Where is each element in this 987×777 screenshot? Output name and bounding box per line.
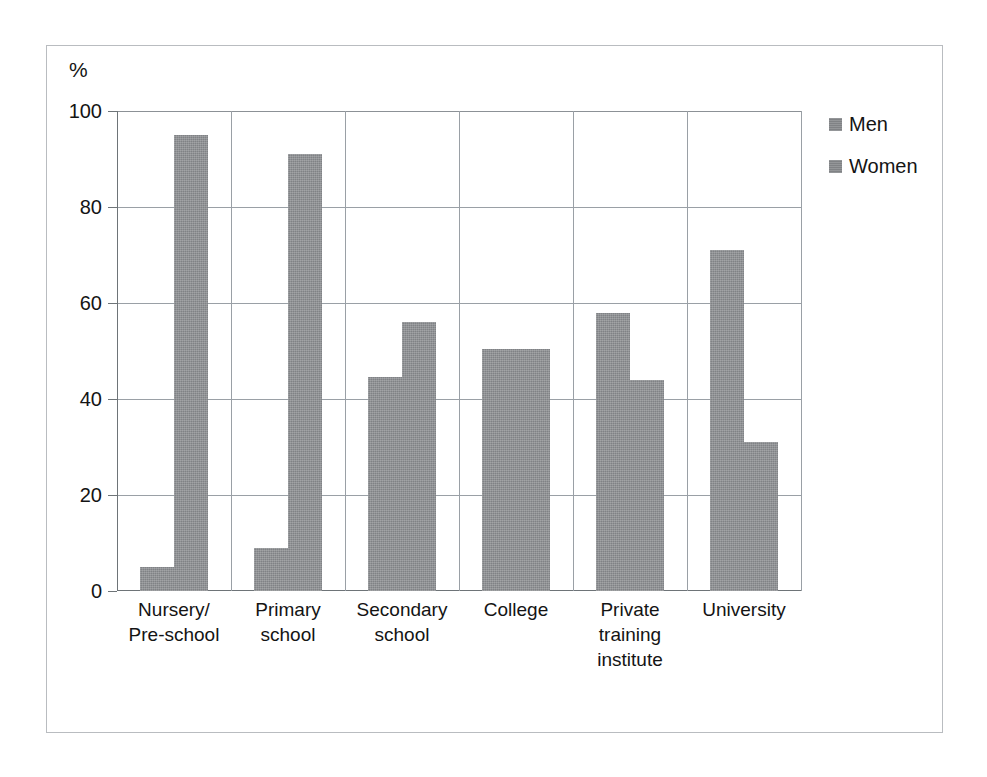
y-axis-spine	[117, 111, 118, 591]
y-tick-mark-100	[108, 111, 117, 112]
y-tick-label-60: 60	[46, 293, 102, 313]
bar-men-2[interactable]	[368, 377, 402, 591]
x-axis-category-labels: Nursery/Pre-schoolPrimaryschoolSecondary…	[117, 597, 801, 717]
bar-women-2[interactable]	[402, 322, 436, 591]
bar-women-4[interactable]	[630, 380, 664, 591]
chart-legend: MenWomen	[829, 114, 939, 198]
category-separator-6	[801, 111, 802, 591]
y-tick-label-80: 80	[46, 197, 102, 217]
category-separator-2	[345, 111, 346, 591]
x-tick-label-line: Secondary	[345, 597, 459, 622]
x-tick-label-2: Secondaryschool	[345, 597, 459, 647]
y-tick-mark-80	[108, 207, 117, 208]
x-tick-label-4: Privatetraininginstitute	[573, 597, 687, 672]
y-tick-mark-20	[108, 495, 117, 496]
x-tick-label-line: University	[687, 597, 801, 622]
bar-men-4[interactable]	[596, 313, 630, 591]
x-tick-label-line: Nursery/	[117, 597, 231, 622]
bar-women-0[interactable]	[174, 135, 208, 591]
x-tick-label-line: Private	[573, 597, 687, 622]
y-tick-mark-60	[108, 303, 117, 304]
x-tick-label-3: College	[459, 597, 573, 622]
x-tick-label-line: Primary	[231, 597, 345, 622]
x-tick-label-1: Primaryschool	[231, 597, 345, 647]
category-separator-5	[687, 111, 688, 591]
legend-label-men: Men	[849, 114, 888, 134]
y-tick-mark-40	[108, 399, 117, 400]
bar-men-0[interactable]	[140, 567, 174, 591]
bar-men-3[interactable]	[482, 349, 516, 591]
y-tick-label-40: 40	[46, 389, 102, 409]
x-tick-label-line: College	[459, 597, 573, 622]
legend-entry-men[interactable]: Men	[829, 114, 939, 134]
x-tick-label-0: Nursery/Pre-school	[117, 597, 231, 647]
y-axis-unit-label: %	[69, 59, 88, 80]
bar-women-5[interactable]	[744, 442, 778, 591]
x-tick-label-line: training	[573, 622, 687, 647]
category-separator-4	[573, 111, 574, 591]
y-tick-label-20: 20	[46, 485, 102, 505]
bar-women-1[interactable]	[288, 154, 322, 591]
legend-swatch-women	[829, 160, 842, 173]
bar-women-3[interactable]	[516, 349, 550, 591]
x-tick-label-line: institute	[573, 647, 687, 672]
x-tick-label-5: University	[687, 597, 801, 622]
x-tick-label-line: school	[345, 622, 459, 647]
plot-area	[117, 111, 801, 591]
category-separator-1	[231, 111, 232, 591]
legend-swatch-men	[829, 118, 842, 131]
x-tick-label-line: Pre-school	[117, 622, 231, 647]
x-tick-label-line: school	[231, 622, 345, 647]
bar-chart: % 020406080100 Nursery/Pre-schoolPrimary…	[47, 46, 942, 732]
category-separator-3	[459, 111, 460, 591]
bar-men-5[interactable]	[710, 250, 744, 591]
y-tick-label-0: 0	[46, 581, 102, 601]
figure-frame: % 020406080100 Nursery/Pre-schoolPrimary…	[46, 45, 943, 733]
legend-entry-women[interactable]: Women	[829, 156, 939, 176]
y-tick-mark-0	[108, 591, 117, 592]
legend-label-women: Women	[849, 156, 918, 176]
y-tick-label-100: 100	[46, 101, 102, 121]
bar-men-1[interactable]	[254, 548, 288, 591]
